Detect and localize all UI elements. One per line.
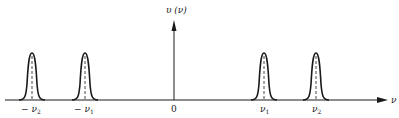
- origin-label: 0: [171, 104, 177, 114]
- tick-label-neg-nu2: − ν2: [21, 104, 41, 115]
- y-axis-label: υ (ν): [166, 5, 187, 15]
- x-axis-arrow-icon: [377, 97, 388, 103]
- peak-nu2: [303, 53, 329, 100]
- x-axis-label: ν: [391, 95, 397, 105]
- tick-label-nu2: ν2: [312, 104, 321, 115]
- peak-nu1: [251, 53, 277, 100]
- y-axis-arrow-icon: [172, 20, 177, 31]
- tick-label-neg-nu1: − ν1: [74, 104, 94, 115]
- spectrum-diagram: υ (ν) ν 0 − ν2 − ν1 ν1 ν2: [0, 0, 399, 118]
- peak-neg-nu1: [72, 53, 98, 100]
- tick-label-nu1: ν1: [260, 104, 269, 115]
- peak-neg-nu2: [19, 53, 45, 100]
